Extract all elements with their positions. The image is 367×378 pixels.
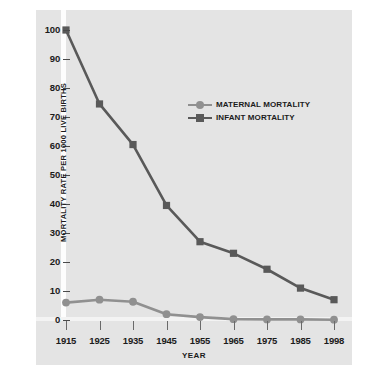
x-tick-mark-1935 [133, 321, 134, 330]
y-tick-label: 90 [50, 53, 60, 65]
y-tick-label: 100 [45, 24, 60, 36]
y-tick-90: 90 [36, 53, 72, 65]
x-tick-mark-1998 [334, 321, 335, 330]
data-point[interactable] [330, 296, 337, 303]
data-point[interactable] [196, 238, 203, 245]
data-point[interactable] [163, 310, 171, 318]
data-point[interactable] [230, 250, 237, 257]
y-tick-label: 0 [55, 314, 60, 326]
x-axis-title: YEAR [36, 351, 352, 360]
y-tick-label: 20 [50, 256, 60, 268]
legend-label: MATERNAL MORTALITY [216, 100, 310, 109]
series-canvas [36, 10, 352, 365]
y-tick-mark [63, 30, 70, 31]
data-point[interactable] [163, 202, 170, 209]
legend-swatch [188, 111, 212, 124]
data-point[interactable] [96, 100, 103, 107]
legend-swatch [188, 98, 212, 111]
mortality-chart-figure: 1009080706050403020100 19151925193519451… [0, 0, 367, 378]
chart-legend: MATERNAL MORTALITYINFANT MORTALITY [188, 98, 310, 124]
y-tick-100: 100 [36, 24, 72, 36]
legend-label: INFANT MORTALITY [216, 113, 295, 122]
data-point[interactable] [129, 141, 136, 148]
y-tick-mark [63, 262, 70, 263]
x-tick-label-1998: 1998 [307, 335, 361, 346]
legend-item-infant-mortality[interactable]: INFANT MORTALITY [188, 111, 310, 124]
data-point[interactable] [196, 313, 204, 321]
data-point[interactable] [96, 296, 104, 304]
legend-circle-marker-icon [196, 101, 204, 109]
y-tick-label: 10 [50, 285, 60, 297]
x-tick-mark-1945 [167, 321, 168, 330]
y-tick-mark [63, 59, 70, 60]
x-tick-mark-1975 [267, 321, 268, 330]
x-tick-mark-1955 [200, 321, 201, 330]
x-tick-mark-1925 [100, 321, 101, 330]
y-tick-10: 10 [36, 285, 72, 297]
x-tick-mark-1985 [301, 321, 302, 330]
plot-area: 1009080706050403020100 19151925193519451… [36, 10, 352, 365]
x-tick-mark-1915 [66, 321, 67, 330]
legend-square-marker-icon [196, 114, 204, 122]
y-tick-20: 20 [36, 256, 72, 268]
series-line-infant-mortality [66, 30, 334, 300]
data-point[interactable] [297, 285, 304, 292]
data-point[interactable] [263, 266, 270, 273]
data-point[interactable] [62, 299, 70, 307]
y-tick-mark [63, 291, 70, 292]
data-point[interactable] [129, 298, 137, 306]
x-tick-mark-1965 [234, 321, 235, 330]
y-axis-title: MORTALITY RATE PER 1000 LIVE BIRTHS [59, 78, 68, 248]
legend-item-maternal-mortality[interactable]: MATERNAL MORTALITY [188, 98, 310, 111]
